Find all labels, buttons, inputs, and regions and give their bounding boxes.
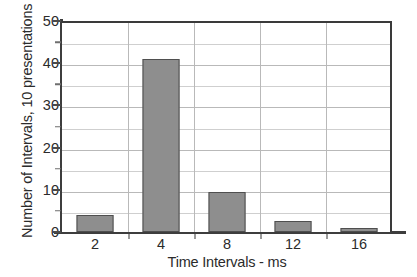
y-tick-mark-20 xyxy=(53,147,61,149)
bar-8 xyxy=(209,192,246,232)
bar-slot xyxy=(128,23,194,232)
bar-slot xyxy=(260,23,326,232)
bar-slot xyxy=(326,23,392,232)
y-tick-mark-40 xyxy=(53,62,61,64)
x-tick-label-12: 12 xyxy=(285,236,301,252)
bar-chart-figure: Number of Intervals, 10 presentations 01… xyxy=(0,0,417,277)
bar-slot xyxy=(194,23,260,232)
bar-16 xyxy=(341,228,378,232)
bar-4 xyxy=(143,59,180,232)
y-tick-mark-0 xyxy=(53,231,61,233)
y-minor-tick-mark-5 xyxy=(55,210,61,212)
x-tick-label-4: 4 xyxy=(157,236,165,252)
x-tick-label-2: 2 xyxy=(91,236,99,252)
y-minor-tick-mark-15 xyxy=(55,168,61,170)
bar-series xyxy=(62,23,390,232)
bar-2 xyxy=(77,215,114,232)
bar-slot xyxy=(62,23,128,232)
y-tick-mark-10 xyxy=(53,189,61,191)
y-tick-mark-30 xyxy=(53,104,61,106)
x-tick-label-16: 16 xyxy=(351,236,367,252)
y-tick-mark-50 xyxy=(53,20,61,22)
plot-area xyxy=(62,21,392,232)
y-minor-tick-mark-25 xyxy=(55,126,61,128)
y-minor-tick-mark-35 xyxy=(55,84,61,86)
x-axis-title: Time Intervals - ms xyxy=(62,254,392,270)
x-tick-label-8: 8 xyxy=(223,236,231,252)
x-axis-tick-labels: 2481216 xyxy=(62,236,392,256)
bar-12 xyxy=(275,221,312,232)
y-minor-tick-mark-45 xyxy=(55,41,61,43)
